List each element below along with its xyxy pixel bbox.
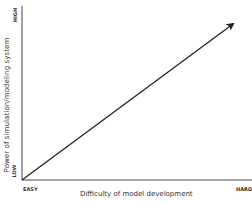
diagram-canvas xyxy=(0,0,252,202)
y-axis-min-label: LOW xyxy=(11,165,17,178)
trend-arrow xyxy=(22,24,233,180)
x-axis-min-label: EASY xyxy=(23,186,38,192)
x-axis-max-label: HARD xyxy=(236,186,252,192)
y-axis-title: Power of simulation/modeling system xyxy=(3,38,11,173)
y-axis-max-label: HIGH xyxy=(12,8,18,22)
x-axis-title: Difficulty of model development xyxy=(80,190,193,198)
